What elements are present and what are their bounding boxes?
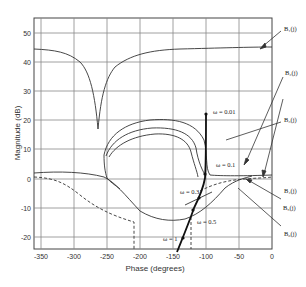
plot-frame bbox=[34, 18, 272, 249]
legend-b1: B₁(j) bbox=[284, 25, 297, 33]
x-axis-label: Phase (degrees) bbox=[125, 264, 184, 273]
x-tick: -50 bbox=[234, 253, 244, 260]
annotation-omega-001: ω = 0.01 bbox=[213, 108, 236, 115]
legend-b3: B₃(j) bbox=[284, 116, 297, 124]
annotation-omega-1: ω = 1 bbox=[163, 235, 177, 242]
x-tick: -100 bbox=[199, 253, 213, 260]
legend-b5: B₅(j) bbox=[283, 204, 296, 212]
y-tick: 30 bbox=[23, 88, 31, 95]
annotation-omega-01: ω = 0.1 bbox=[216, 161, 235, 168]
y-axis-label: Magnitude (dB) bbox=[13, 105, 22, 160]
annotation-omega-05: ω = 0.5 bbox=[197, 218, 216, 225]
annotation-omega-03: ω = 0.3 bbox=[180, 188, 199, 195]
y-tick: 20 bbox=[23, 117, 31, 124]
x-tick: 0 bbox=[270, 253, 274, 260]
legend-b4: B₄(j) bbox=[284, 187, 297, 195]
x-tick: -300 bbox=[67, 253, 81, 260]
y-tick: -20 bbox=[21, 234, 31, 241]
y-tick: 40 bbox=[23, 59, 31, 66]
x-tick: -350 bbox=[34, 253, 48, 260]
y-tick: 50 bbox=[23, 30, 31, 37]
x-tick: -250 bbox=[100, 253, 114, 260]
nichols-chart: -350 -300 -250 -200 -150 -100 -50 0 50 4… bbox=[0, 0, 306, 287]
x-tick: -200 bbox=[133, 253, 147, 260]
x-tick-labels: -350 -300 -250 -200 -150 -100 -50 0 bbox=[34, 253, 274, 260]
y-tick: 0 bbox=[27, 176, 31, 183]
x-tick: -150 bbox=[166, 253, 180, 260]
legend: B₁(j) B₂(j) B₃(j) B₄(j) B₅(j) B₆(j) bbox=[283, 25, 298, 238]
y-tick: 10 bbox=[23, 146, 31, 153]
legend-b2: B₂(j) bbox=[285, 69, 298, 77]
y-tick-labels: 50 40 30 20 10 0 -10 -20 bbox=[21, 30, 31, 241]
legend-b6: B₆(j) bbox=[284, 230, 297, 238]
y-tick: -10 bbox=[21, 205, 31, 212]
